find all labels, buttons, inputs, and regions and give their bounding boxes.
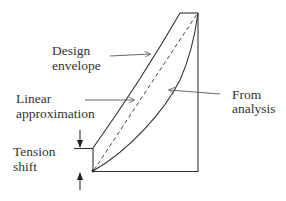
origin-point bbox=[92, 170, 95, 173]
design-envelope-leader bbox=[110, 54, 150, 56]
from-analysis-label: From analysis bbox=[232, 87, 276, 116]
tension-shift-dimension bbox=[74, 130, 93, 190]
linear-approximation-line bbox=[94, 14, 197, 170]
tension-shift-label: Tension shift bbox=[13, 144, 59, 174]
from-analysis-leader bbox=[169, 90, 220, 94]
diagram-canvas: Design envelope Linear approximation Fro… bbox=[0, 0, 286, 201]
design-envelope-label: Design envelope bbox=[52, 43, 101, 73]
design-envelope-line bbox=[93, 13, 180, 148]
linear-approximation-label: Linear approximation bbox=[16, 91, 95, 121]
